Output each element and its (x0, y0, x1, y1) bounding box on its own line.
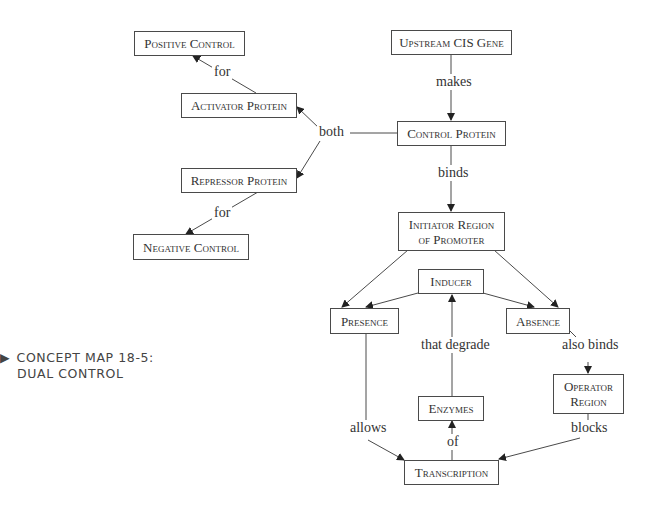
node-control-protein: Control Protein (397, 121, 506, 146)
link-label-also-binds: also binds (560, 337, 620, 353)
node-repressor-protein: Repressor Protein (181, 168, 297, 193)
node-absence: Absence (506, 308, 570, 334)
connector-lines (0, 0, 647, 512)
link-label-makes: makes (434, 74, 474, 90)
node-label: Positive Control (144, 36, 235, 51)
link-label-that-degrade: that degrade (419, 337, 492, 353)
node-label: Inducer (430, 274, 471, 289)
node-operator-region: Operator Region (553, 374, 624, 414)
node-label: Upstream CIS Gene (399, 35, 504, 50)
node-negative-control: Negative Control (133, 234, 249, 260)
link-label-blocks: blocks (569, 420, 610, 436)
node-label: Transcription (415, 465, 488, 480)
node-label: Enzymes (429, 401, 474, 416)
node-initiator-region: Initiator Region of Promoter (398, 212, 505, 251)
link-label-for-positive: for (212, 64, 232, 80)
link-label-both: both (317, 124, 346, 140)
triangle-marker-icon: ▶ (0, 350, 12, 366)
node-activator-protein: Activator Protein (181, 93, 297, 118)
node-presence: Presence (330, 308, 399, 334)
node-inducer: Inducer (418, 269, 484, 294)
node-label: Repressor Protein (191, 173, 288, 188)
node-upstream-cis-gene: Upstream CIS Gene (391, 30, 512, 55)
link-label-allows: allows (348, 420, 389, 436)
node-label: Presence (341, 314, 388, 329)
concept-map: Positive Control Activator Protein Upstr… (0, 0, 647, 512)
node-label: Operator Region (560, 379, 617, 409)
link-label-for-negative: for (212, 205, 232, 221)
node-enzymes: Enzymes (418, 396, 484, 421)
node-label: Control Protein (407, 126, 496, 141)
node-label: Initiator Region of Promoter (405, 217, 498, 247)
node-positive-control: Positive Control (134, 31, 245, 56)
caption-line-2: DUAL CONTROL (17, 366, 124, 381)
caption-line-1: CONCEPT MAP 18-5: (17, 350, 154, 365)
node-label: Negative Control (143, 240, 239, 255)
node-label: Activator Protein (191, 98, 287, 113)
node-label: Absence (516, 314, 560, 329)
link-label-binds: binds (436, 165, 470, 181)
figure-caption: ▶ CONCEPT MAP 18-5: DUAL CONTROL (0, 350, 154, 382)
node-transcription: Transcription (404, 460, 499, 485)
link-label-of: of (445, 434, 461, 450)
